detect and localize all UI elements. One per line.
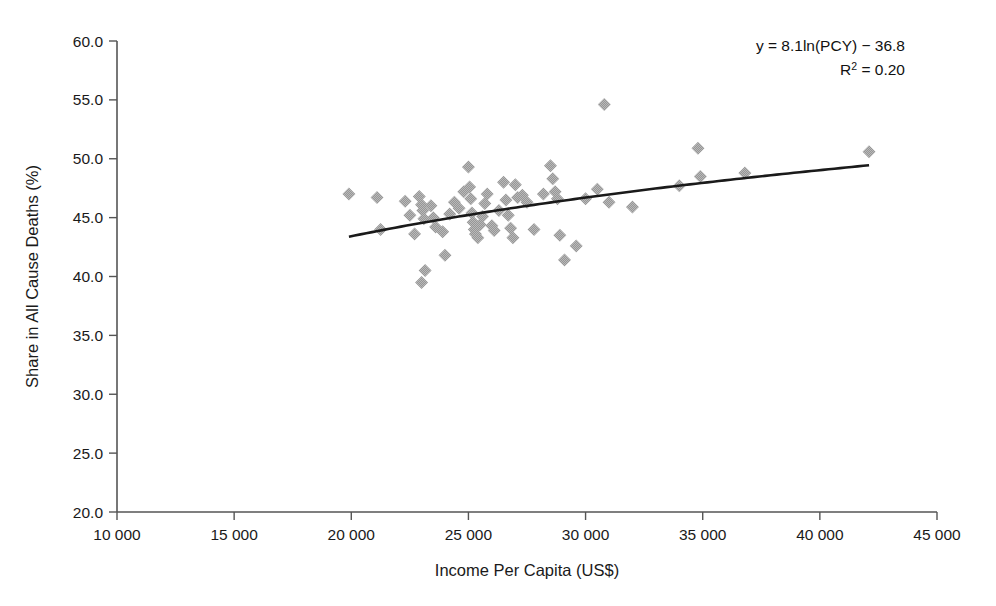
data-point[interactable] [863, 145, 876, 158]
r-squared-label: R2 = 0.20 [840, 60, 905, 78]
x-tick-label-35000: 35 000 [679, 526, 727, 543]
data-point[interactable] [544, 159, 557, 172]
data-point[interactable] [478, 197, 491, 210]
data-point[interactable] [499, 193, 512, 206]
x-axis-title: Income Per Capita (US$) [435, 561, 619, 579]
y-tick-label-25: 25.0 [73, 445, 104, 462]
x-tick-label-10000: 10 000 [93, 526, 141, 543]
data-point[interactable] [546, 172, 559, 185]
data-point[interactable] [537, 188, 550, 201]
data-point[interactable] [558, 254, 571, 267]
y-axis-title: Share in All Cause Deaths (%) [23, 165, 41, 388]
data-point[interactable] [603, 196, 616, 209]
data-point[interactable] [399, 195, 412, 208]
x-tick-label-45000: 45 000 [913, 526, 961, 543]
y-tick-label-35: 35.0 [73, 327, 104, 344]
x-tick-label-40000: 40 000 [796, 526, 844, 543]
data-point[interactable] [497, 176, 510, 189]
y-tick-label-40: 40.0 [73, 268, 104, 285]
data-point[interactable] [591, 183, 604, 196]
data-point[interactable] [342, 188, 355, 201]
x-tick-label-30000: 30 000 [562, 526, 610, 543]
x-tick-label-15000: 15 000 [210, 526, 258, 543]
chart-canvas: 10 00015 00020 00025 00030 00035 00040 0… [0, 0, 996, 606]
scatter-chart-figure: 10 00015 00020 00025 00030 00035 00040 0… [0, 0, 996, 606]
y-tick-label-45: 45.0 [73, 209, 104, 226]
x-tick-label-20000: 20 000 [328, 526, 376, 543]
data-point[interactable] [462, 160, 475, 173]
data-point[interactable] [692, 142, 705, 155]
data-point[interactable] [626, 201, 639, 214]
data-point[interactable] [419, 264, 432, 277]
data-point[interactable] [415, 276, 428, 289]
data-point[interactable] [598, 98, 611, 111]
data-point[interactable] [439, 249, 452, 262]
data-point[interactable] [570, 239, 583, 252]
regression-equation-label: y = 8.1ln(PCY) − 36.8 [756, 37, 905, 54]
y-tick-label-55: 55.0 [73, 91, 104, 108]
y-tick-label-30: 30.0 [73, 386, 104, 403]
data-point[interactable] [371, 191, 384, 204]
data-point[interactable] [509, 178, 522, 191]
data-point[interactable] [481, 188, 494, 201]
data-point[interactable] [506, 231, 519, 244]
data-point[interactable] [694, 170, 707, 183]
data-point[interactable] [528, 223, 541, 236]
x-tick-label-25000: 25 000 [445, 526, 493, 543]
y-tick-label-50: 50.0 [73, 150, 104, 167]
data-point[interactable] [408, 228, 421, 241]
y-tick-label-20: 20.0 [73, 504, 104, 521]
data-point[interactable] [403, 209, 416, 222]
data-point[interactable] [504, 222, 517, 235]
y-tick-label-60: 60.0 [73, 33, 104, 50]
data-point[interactable] [553, 229, 566, 242]
